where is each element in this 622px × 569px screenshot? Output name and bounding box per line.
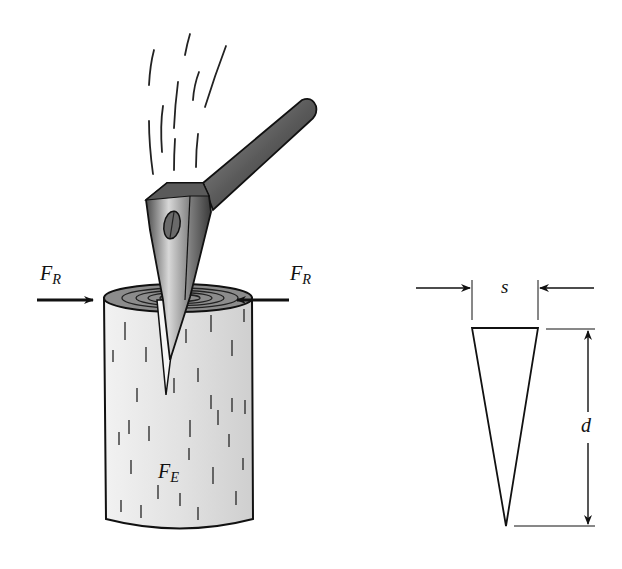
wedge-triangle — [472, 328, 538, 526]
wedge-width-label: s — [501, 276, 508, 298]
label-symbol: F — [158, 460, 170, 482]
force-label-resistance-right: FR — [290, 262, 311, 285]
label-symbol: F — [290, 262, 302, 284]
label-subscript: E — [170, 469, 179, 485]
wedge-depth-label: d — [581, 414, 591, 437]
label-subscript: R — [302, 271, 311, 287]
wedge-diagram — [416, 280, 595, 526]
force-label-resistance-left: FR — [40, 262, 61, 285]
force-label-effort: FE — [158, 460, 179, 483]
axe-handle — [203, 99, 316, 210]
motion-lines — [149, 34, 226, 174]
label-symbol: F — [40, 262, 52, 284]
label-subscript: R — [52, 271, 61, 287]
